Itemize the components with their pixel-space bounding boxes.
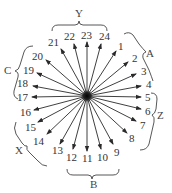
arrow-4 — [87, 86, 141, 96]
arrow-label-16: 16 — [20, 106, 32, 118]
arrow-label-24: 24 — [99, 30, 111, 42]
arrow-label-13: 13 — [52, 144, 64, 156]
arrow-17 — [32, 96, 87, 97]
arrow-label-17: 17 — [17, 91, 29, 103]
radial-arrow-diagram: 123456789101112131415161718192021222324 … — [0, 0, 172, 193]
arrow-label-8: 8 — [129, 132, 135, 144]
arrow-label-22: 22 — [64, 30, 75, 42]
arrow-label-14: 14 — [33, 135, 45, 147]
group-label-z: Z — [157, 109, 164, 121]
arrow-label-11: 11 — [82, 152, 93, 164]
arrow-18 — [33, 86, 87, 96]
center-hub — [81, 90, 93, 102]
arrow-label-12: 12 — [66, 151, 77, 163]
arrow-label-15: 15 — [25, 121, 37, 133]
arrow-12 — [73, 96, 87, 149]
arrow-label-1: 1 — [118, 40, 124, 52]
arrow-label-2: 2 — [132, 52, 138, 64]
arrow-8 — [87, 96, 127, 133]
arrow-19 — [37, 73, 87, 96]
arrow-6 — [87, 96, 141, 109]
arrow-24 — [87, 44, 101, 96]
arrow-10 — [87, 96, 101, 149]
arrow-label-21: 21 — [48, 36, 59, 48]
arrow-label-4: 4 — [146, 78, 152, 90]
arrow-5 — [87, 96, 141, 97]
group-label-c: C — [4, 64, 11, 76]
arrow-label-9: 9 — [114, 146, 120, 158]
arrow-21 — [61, 49, 87, 96]
group-label-b: B — [90, 178, 97, 190]
group-label-y: Y — [75, 7, 83, 19]
arrow-label-6: 6 — [145, 105, 151, 117]
arrow-label-19: 19 — [23, 64, 35, 76]
arrow-label-3: 3 — [141, 65, 147, 77]
arrow-7 — [87, 96, 136, 121]
arrow-label-10: 10 — [97, 151, 109, 163]
arrow-20 — [46, 60, 87, 96]
arrow-9 — [87, 96, 113, 144]
arrow-label-5: 5 — [145, 91, 151, 103]
arrow-label-23: 23 — [81, 29, 93, 41]
group-label-x: X — [15, 144, 23, 156]
arrow-label-20: 20 — [32, 50, 44, 62]
arrow-2 — [87, 62, 128, 96]
arrow-label-7: 7 — [140, 119, 146, 131]
arrow-label-18: 18 — [17, 77, 29, 89]
arrow-22 — [74, 44, 87, 96]
group-label-a: A — [146, 47, 154, 59]
